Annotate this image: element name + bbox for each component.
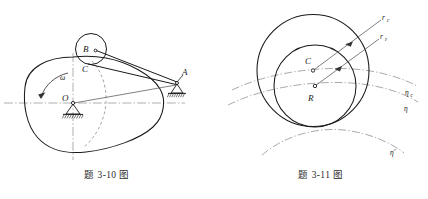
center-label-o: O [62,93,69,103]
figure-3-10-panel: ω B C [0,0,214,199]
center-label-r: R [307,93,314,103]
svg-text:ε: ε [385,36,388,42]
point-label-c: C [82,64,89,74]
center-label-c: C [305,56,312,66]
roller-center-dot-b [94,49,97,52]
cam-outline [24,56,163,152]
center-dot-c [311,69,314,72]
curve-label-eta: η [404,104,408,113]
svg-text:r: r [380,32,383,41]
rod-c-to-a [88,64,176,85]
omega-label: ω [60,73,65,82]
figure-3-10-drawing: ω B C [0,0,214,170]
svg-text:r: r [382,13,385,22]
figure-3-11-drawing: C R r c r ε η c η η′ [214,0,428,170]
figure-sheet: ω B C [0,0,428,199]
figure-3-11-panel: C R r c r ε η c η η′ 题 3-11 图 [214,0,428,199]
figure-3-10-caption: 题 3-10 图 [0,167,214,181]
line-o-to-a [74,85,176,103]
center-dot-r [313,84,316,87]
figure-3-11-caption: 题 3-11 图 [214,167,428,181]
arc-eta-prime [262,129,404,155]
rod-b-to-a [97,51,177,82]
arc-eta [228,82,418,105]
svg-text:c: c [411,92,414,98]
radius-label-r-epsilon: r ε [380,32,388,42]
curve-label-eta-c: η c [405,88,414,98]
omega-arrowhead [38,92,45,99]
svg-text:η: η [405,88,409,97]
support-label-a: A [181,67,188,77]
roller-circle-b [76,34,107,65]
curve-label-eta-prime: η′ [390,148,396,157]
svg-text:c: c [387,17,390,23]
roller-label-b: B [83,44,89,54]
radius-label-rc: r c [382,13,390,23]
